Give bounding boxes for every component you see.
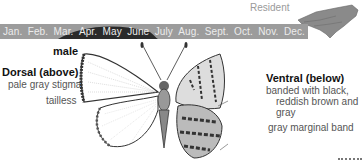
ventral-note: gray	[276, 107, 295, 118]
month-label: May	[103, 26, 122, 37]
month-label: Aug.	[178, 26, 199, 37]
ventral-note: gray marginal band	[268, 122, 354, 133]
ventral-note: reddish brown and	[276, 96, 358, 107]
month-label: Nov.	[258, 26, 278, 37]
flight-period-bar: Jan. Feb. Mar. Apr. May June July Aug. S…	[0, 24, 308, 39]
dorsal-heading: Dorsal (above)	[2, 66, 78, 78]
month-label: Mar.	[54, 26, 74, 37]
month-label: July	[155, 26, 173, 37]
month-label: Jan.	[3, 26, 22, 37]
ventral-note: banded with black,	[266, 85, 349, 96]
month-label: June	[127, 26, 149, 37]
month-label: Sept.	[205, 26, 229, 37]
residency-status: Resident	[250, 2, 289, 13]
month-label: Apr.	[79, 26, 97, 37]
page-edge-mark	[338, 158, 362, 162]
ventral-heading: Ventral (below)	[266, 72, 344, 84]
butterfly-illustration	[70, 40, 230, 162]
month-label: Oct.	[234, 26, 253, 37]
month-list: Jan. Feb. Mar. Apr. May June July Aug. S…	[0, 24, 308, 39]
month-label: Dec.	[284, 26, 305, 37]
month-label: Feb.	[28, 26, 48, 37]
